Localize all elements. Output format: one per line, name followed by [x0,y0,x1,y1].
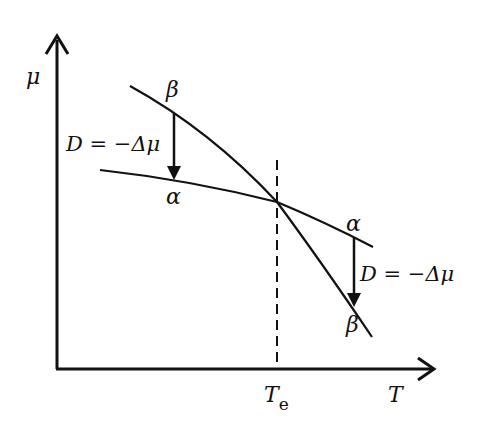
x-axis [56,358,434,380]
beta-label-bottom: β [345,312,359,337]
beta-curve [130,86,372,337]
y-axis [46,36,68,369]
chemical-potential-diagram: μ T Te β α α β D = −Δμ D = −Δμ [0,0,482,435]
alpha-label-left: α [166,184,181,209]
y-axis-label: μ [26,64,40,89]
beta-label-top: β [165,77,179,102]
driving-force-arrow-right [347,238,361,307]
alpha-label-right: α [346,211,361,236]
driving-force-label-right: D = −Δμ [359,262,454,286]
alpha-curve [100,170,373,247]
x-axis-label: T [388,382,405,407]
diagram-canvas: μ T Te β α α β D = −Δμ D = −Δμ [0,0,482,435]
driving-force-label-left: D = −Δμ [65,132,160,156]
equilibrium-temperature-label: Te [264,382,289,414]
driving-force-arrow-left [167,113,181,180]
